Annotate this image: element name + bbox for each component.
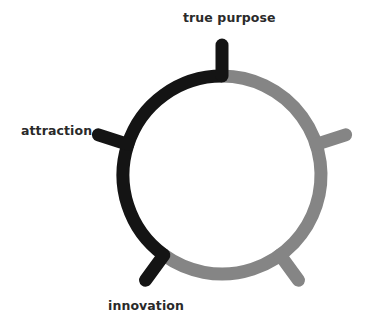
active-arc (123, 76, 222, 255)
spoke-bottom-right (280, 255, 298, 280)
label-innovation: innovation (108, 298, 184, 313)
spoke-bottom-left (146, 255, 164, 280)
spoke-left (98, 135, 127, 145)
spoke-right (316, 135, 345, 145)
inactive-arc (164, 76, 321, 274)
cycle-diagram (0, 0, 366, 329)
label-attraction: attraction (21, 123, 92, 138)
label-true-purpose: true purpose (183, 10, 276, 25)
